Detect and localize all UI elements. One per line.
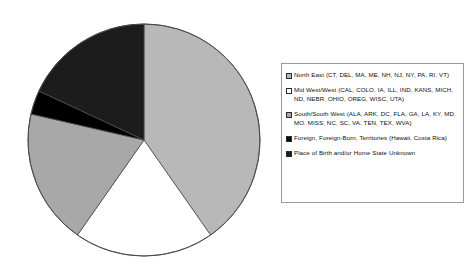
- legend-swatch-north-east: [286, 73, 292, 79]
- legend-item-south-south-west[interactable]: South/South West (ALA, ARK, DC, FLA, GA,…: [286, 110, 458, 127]
- legend-swatch-unknown: [286, 151, 292, 157]
- legend-item-north-east[interactable]: North East (CT, DEL, MA, ME, NH, NJ, NY,…: [286, 71, 458, 79]
- legend-label-mid-west-west: Mid West/West (CAL, COLO, IA, ILL, IND, …: [294, 86, 458, 103]
- legend-swatch-mid-west-west: [286, 88, 292, 94]
- legend-item-mid-west-west[interactable]: Mid West/West (CAL, COLO, IA, ILL, IND, …: [286, 86, 458, 103]
- pie-slice-group: [28, 24, 260, 256]
- chart-legend: North East (CT, DEL, MA, ME, NH, NJ, NY,…: [281, 63, 464, 203]
- legend-label-north-east: North East (CT, DEL, MA, ME, NH, NJ, NY,…: [294, 71, 458, 79]
- pie-chart-figure: North East (CT, DEL, MA, ME, NH, NJ, NY,…: [0, 0, 469, 264]
- legend-swatch-foreign-territories: [286, 136, 292, 142]
- pie-chart-svg: [22, 14, 266, 258]
- legend-item-foreign-territories[interactable]: Foreign, Foreign-Born, Territories (Hawa…: [286, 134, 458, 142]
- pie-chart-plot-area: [22, 14, 266, 258]
- legend-swatch-south-south-west: [286, 112, 292, 118]
- legend-item-unknown[interactable]: Place of Birth and/or Home State Unknown: [286, 149, 458, 157]
- legend-label-south-south-west: South/South West (ALA, ARK, DC, FLA, GA,…: [294, 110, 458, 127]
- legend-label-foreign-territories: Foreign, Foreign-Born, Territories (Hawa…: [294, 134, 458, 142]
- legend-label-unknown: Place of Birth and/or Home State Unknown: [294, 149, 458, 157]
